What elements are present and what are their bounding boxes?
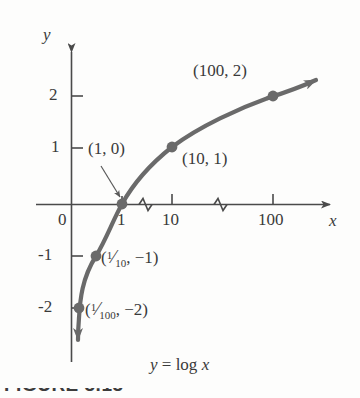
x-axis bbox=[36, 194, 330, 211]
equation-label: y = log x bbox=[150, 356, 209, 373]
data-point-10-1 bbox=[167, 142, 178, 153]
y-tick-label-neg2: -2 bbox=[38, 298, 52, 315]
origin-label: 0 bbox=[58, 211, 67, 228]
point-label-1-0: (1, 0) bbox=[88, 140, 125, 157]
fraction-numerator: 1 bbox=[91, 301, 97, 313]
point-label-100-2: (100, 2) bbox=[193, 62, 247, 79]
data-point-1-0 bbox=[117, 199, 128, 210]
data-point-100-2 bbox=[268, 91, 279, 102]
x-axis-label: x bbox=[329, 212, 337, 229]
equation-function: log bbox=[176, 355, 198, 374]
point-label-10-1: (10, 1) bbox=[182, 150, 227, 167]
label-remainder: , −1) bbox=[126, 248, 158, 267]
fraction-numerator: 1 bbox=[107, 249, 113, 261]
y-axis-label: y bbox=[43, 26, 51, 43]
point-label-hundredth-neg2: (1⁄100, −2) bbox=[85, 300, 148, 318]
x-tick-label-1: 1 bbox=[117, 211, 126, 228]
x-tick-label-10: 10 bbox=[162, 211, 179, 228]
paren-open: ( bbox=[85, 300, 91, 319]
y-tick-label-2: 2 bbox=[49, 86, 58, 103]
equation-equals: = bbox=[162, 355, 172, 374]
paren-open: ( bbox=[101, 248, 107, 267]
data-points bbox=[74, 91, 279, 314]
fraction-denominator: 100 bbox=[99, 309, 116, 321]
x-tick-label-100: 100 bbox=[258, 211, 284, 228]
fraction-denominator: 10 bbox=[115, 257, 126, 269]
equation-argument: x bbox=[202, 355, 210, 374]
figure-caption-strip: FIGURE 3.13 bbox=[0, 388, 360, 398]
y-tick-label-1: 1 bbox=[51, 138, 60, 155]
data-point-tenth-n1 bbox=[91, 251, 102, 262]
y-tick-label-neg1: -1 bbox=[38, 246, 52, 263]
callout-arrow-1-0 bbox=[101, 166, 120, 197]
figure-caption: FIGURE 3.13 bbox=[4, 388, 124, 396]
log-function-figure: y x 0 2 1 -1 -2 1 10 100 (100, 2) (10, 1… bbox=[0, 0, 360, 398]
data-point-hundredth-n2 bbox=[74, 303, 85, 314]
label-remainder: , −2) bbox=[116, 300, 148, 319]
plot-canvas bbox=[0, 0, 360, 398]
point-label-tenth-neg1: (1⁄10, −1) bbox=[101, 248, 158, 266]
equation-lhs: y bbox=[150, 355, 158, 374]
